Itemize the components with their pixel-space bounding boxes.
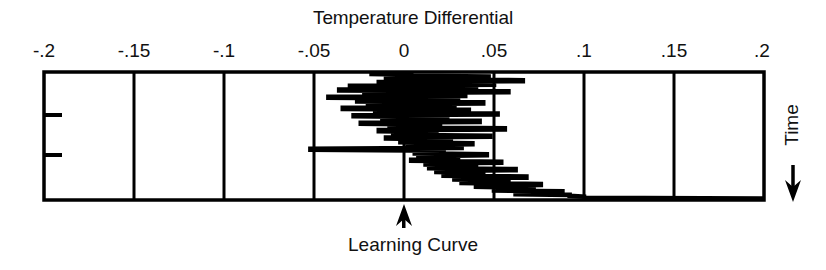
y-axis-label-text: Time — [781, 104, 803, 146]
up-arrow-icon — [396, 204, 412, 228]
temperature-differential-trace — [310, 72, 764, 199]
figure-container: Temperature Differential -.2 -.15 -.1 -.… — [0, 0, 826, 270]
plot-area — [0, 0, 826, 270]
data-trace-group — [310, 72, 764, 199]
y-axis-label: Time — [780, 88, 804, 162]
down-arrow-icon — [785, 165, 801, 202]
y-axis-ticks — [44, 115, 62, 155]
learning-curve-label: Learning Curve — [0, 234, 826, 256]
